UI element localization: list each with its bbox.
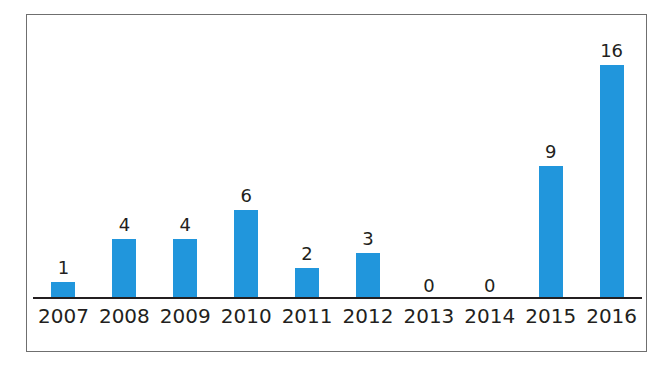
category-tick-2012: 2012 bbox=[338, 301, 399, 333]
category-tick-2016: 2016 bbox=[581, 301, 642, 333]
bar-series-layer: 14462300916 bbox=[33, 21, 642, 297]
bar-rect-2011 bbox=[295, 268, 319, 297]
bar-chart-plot-area: 14462300916 2007200820092010201120122013… bbox=[27, 15, 648, 353]
bar-group-2014: 0 bbox=[459, 21, 520, 297]
bar-group-2011: 2 bbox=[277, 21, 338, 297]
bar-group-2015: 9 bbox=[520, 21, 581, 297]
bar-rect-2008 bbox=[112, 239, 136, 297]
category-axis-labels: 2007200820092010201120122013201420152016 bbox=[33, 301, 642, 333]
bar-group-2016: 16 bbox=[581, 21, 642, 297]
bar-group-2007: 1 bbox=[33, 21, 94, 297]
category-tick-2008: 2008 bbox=[94, 301, 155, 333]
bar-rect-2009 bbox=[173, 239, 197, 297]
category-axis-line bbox=[33, 297, 642, 299]
bar-value-label: 16 bbox=[600, 42, 623, 60]
bar-rect-2015 bbox=[539, 166, 563, 297]
category-tick-2011: 2011 bbox=[277, 301, 338, 333]
bar-group-2009: 4 bbox=[155, 21, 216, 297]
bar-rect-2010 bbox=[234, 210, 258, 297]
category-tick-2015: 2015 bbox=[520, 301, 581, 333]
bar-value-label: 0 bbox=[484, 277, 495, 295]
bar-value-label: 1 bbox=[58, 259, 69, 277]
bar-group-2012: 3 bbox=[338, 21, 399, 297]
bar-group-2008: 4 bbox=[94, 21, 155, 297]
bar-rect-2012 bbox=[356, 253, 380, 297]
category-tick-2009: 2009 bbox=[155, 301, 216, 333]
category-tick-2010: 2010 bbox=[216, 301, 277, 333]
category-tick-2007: 2007 bbox=[33, 301, 94, 333]
bar-value-label: 4 bbox=[180, 216, 191, 234]
bar-group-2010: 6 bbox=[216, 21, 277, 297]
bar-value-label: 9 bbox=[545, 143, 556, 161]
category-tick-2013: 2013 bbox=[398, 301, 459, 333]
bar-rect-2007 bbox=[51, 282, 75, 297]
bar-value-label: 6 bbox=[240, 187, 251, 205]
bar-value-label: 4 bbox=[119, 216, 130, 234]
bar-value-label: 3 bbox=[362, 230, 373, 248]
bar-value-label: 0 bbox=[423, 277, 434, 295]
bar-rect-2016 bbox=[600, 65, 624, 297]
bar-value-label: 2 bbox=[301, 245, 312, 263]
chart-figure-frame: 14462300916 2007200820092010201120122013… bbox=[26, 14, 647, 352]
bar-group-2013: 0 bbox=[398, 21, 459, 297]
category-tick-2014: 2014 bbox=[459, 301, 520, 333]
